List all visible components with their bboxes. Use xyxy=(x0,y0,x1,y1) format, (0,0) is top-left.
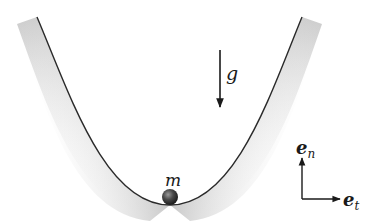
normal-vector-label: en xyxy=(296,137,315,161)
basis-vectors: en et xyxy=(296,137,359,213)
gravity-label: g xyxy=(226,62,238,84)
bowl-diagram: m g en et xyxy=(0,0,384,221)
tangent-vector-label: et xyxy=(343,189,359,213)
mass-ball xyxy=(162,189,178,205)
mass-label: m xyxy=(165,170,181,190)
